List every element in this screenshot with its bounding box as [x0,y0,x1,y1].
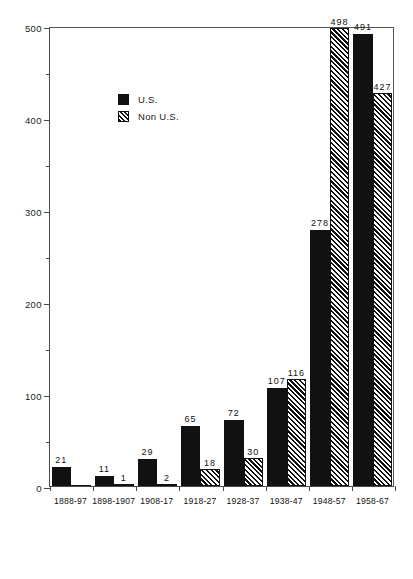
bar-us: 107 [267,388,287,486]
x-axis-tick-label: 1898-1907 [92,496,135,506]
bar-value-label: 491 [354,22,372,32]
bar-non-us: 18 [200,469,220,486]
x-axis-tick [50,486,51,491]
legend-item-non-us: Non U.S. [118,109,179,123]
bar-value-label: 65 [185,414,197,424]
bar-value-label: 427 [374,82,392,92]
x-axis-tick [179,486,180,491]
y-axis-minor-tick [46,442,50,443]
bar-non-us: 116 [287,379,307,486]
bar-us: 21 [52,467,72,486]
x-axis-tick [266,486,267,491]
x-axis-tick [395,486,396,491]
bar-chart: 0100200300400500 21111292651872301071162… [0,0,413,579]
x-axis-tick [309,486,310,491]
x-axis-tick-label: 1928-37 [227,496,260,506]
x-axis-tick [223,486,224,491]
bar-us: 65 [181,426,201,486]
chart-legend: U.S. Non U.S. [118,92,179,126]
bar-non-us: 427 [373,93,393,486]
bar-non-us: 2 [157,484,177,487]
bar-value-label: 18 [204,458,216,468]
y-axis-tick-label: 200 [25,299,42,310]
bar-non-us: 30 [244,458,264,486]
bar-us: 278 [310,230,330,486]
y-axis-tick [44,28,50,29]
bar-value-label: 116 [288,368,305,378]
y-axis-tick [44,396,50,397]
bar-us: 11 [95,476,115,486]
bar-value-label: 2 [164,473,170,483]
bar-value-label: 11 [99,464,110,474]
bar-non-us: 498 [330,28,350,486]
bar-us: 72 [224,420,244,486]
y-axis-tick-label: 0 [36,483,42,494]
x-axis-tick-label: 1918-27 [183,496,216,506]
legend-item-us: U.S. [118,92,179,106]
x-axis-tick-label: 1908-17 [140,496,173,506]
legend-label-us: U.S. [138,94,158,105]
y-axis-tick [44,304,50,305]
y-axis-tick-label: 500 [25,23,42,34]
y-axis-tick [44,120,50,121]
legend-label-non-us: Non U.S. [138,111,179,122]
y-axis-tick-label: 300 [25,207,42,218]
bar-us: 29 [138,459,158,486]
plot-area: 0100200300400500 21111292651872301071162… [49,27,394,487]
bar-value-label: 278 [311,218,329,228]
legend-swatch-non-us-icon [118,111,129,122]
bar-value-label: 30 [247,447,259,457]
y-axis-minor-tick [46,166,50,167]
y-axis-minor-tick [46,74,50,75]
bar-us: 491 [353,34,373,486]
x-axis-tick [136,486,137,491]
y-axis-tick-label: 400 [25,115,42,126]
bar-non-us [71,485,91,487]
bar-value-label: 1 [121,473,127,483]
y-axis-tick [44,212,50,213]
x-axis-tick-label: 1938-47 [270,496,303,506]
x-axis-tick [93,486,94,491]
bar-value-label: 21 [55,455,67,465]
bar-value-label: 107 [268,376,286,386]
x-axis-tick [352,486,353,491]
x-axis-tick-label: 1948-57 [313,496,346,506]
bar-value-label: 29 [141,447,153,457]
bar-non-us: 1 [114,484,134,487]
y-axis-tick-label: 100 [25,391,42,402]
y-axis-minor-tick [46,350,50,351]
legend-swatch-us-icon [118,94,129,105]
y-axis-minor-tick [46,258,50,259]
bar-value-label: 72 [228,408,240,418]
bar-value-label: 498 [330,17,348,27]
x-axis-tick-label: 1958-67 [356,496,389,506]
x-axis-tick-label: 1888-97 [54,496,87,506]
